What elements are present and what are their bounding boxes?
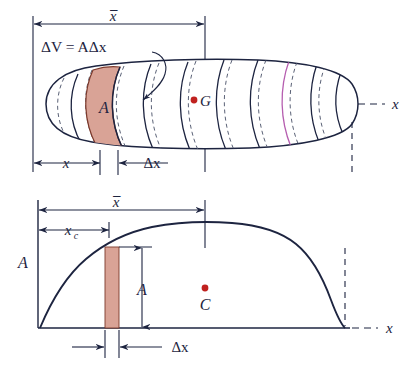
bottom-axis-label: x [385, 320, 393, 336]
bottom-panel: ̅ x x c A A C x Δx [17, 194, 393, 358]
bottom-vertical-axis-label: A [17, 254, 28, 271]
center-of-gravity-marker [191, 97, 198, 104]
bottom-xc-label: x c [64, 222, 79, 241]
top-axis-label: x [391, 96, 399, 112]
top-deltax-dimension-label: Δx [143, 155, 161, 171]
area-curve [40, 222, 345, 328]
slice-area-label: A [98, 99, 109, 116]
bottom-xc-text: x [64, 222, 72, 238]
top-x-dimension-label: x [62, 155, 70, 171]
bottom-deltax-label: Δx [171, 339, 189, 355]
strip-height-label: A [136, 281, 147, 298]
center-of-gravity-label: G [200, 93, 211, 109]
top-xbar-text: x [109, 8, 117, 24]
volume-element-equation: ΔV = AΔx [41, 38, 107, 55]
top-panel: ̅ x [33, 8, 399, 175]
centroid-diagram: ̅ x [0, 0, 413, 368]
bottom-xc-subscript: c [74, 230, 79, 241]
figure-root: ̅ x [0, 0, 413, 368]
bottom-xbar-text: x [112, 194, 120, 210]
centroid-label: C [200, 296, 211, 313]
bottom-xbar-label: ̅ x [112, 194, 121, 210]
centroid-marker [202, 285, 209, 292]
top-xbar-label: ̅ x [109, 8, 118, 24]
area-element-strip [105, 247, 119, 328]
